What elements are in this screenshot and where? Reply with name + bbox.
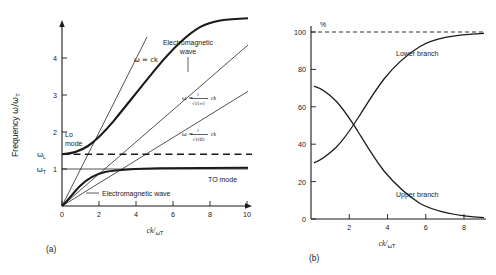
panel-a: Frequency ω/ωT 1 2 3 4 ωL [0, 0, 256, 275]
svg-text:√ε(0): √ε(0) [193, 137, 205, 142]
panel-b-xtick-8: 8 [462, 223, 466, 232]
panel-a-xtick-0: 0 [60, 210, 64, 219]
panel-a-ytick-1: 1 [53, 165, 57, 174]
panel-a-upper-branch-curve [62, 18, 248, 154]
panel-a-formula-eps-inf: ω = 1 √ε(∞) ck [182, 92, 216, 106]
panel-a-ytick-4: 4 [53, 54, 57, 63]
panel-b-y-ticks: 0 20 40 60 80 100 [294, 28, 316, 224]
panel-a-formula-eps-zero: ω = 1 √ε(0) ck [182, 128, 216, 142]
panel-a-omega-L-label: ωL [37, 150, 46, 160]
svg-text:Frequency ω/ωT: Frequency ω/ωT [10, 93, 21, 157]
svg-text:1: 1 [197, 128, 199, 133]
panel-a-x-axis-arrow [245, 203, 252, 208]
panel-b-label: (b) [309, 253, 319, 263]
panel-a-em-wave-bottom-label: Electromagnetic wave [102, 190, 171, 198]
svg-text:√ε(∞): √ε(∞) [192, 101, 205, 106]
panel-a-xtick-8: 8 [208, 210, 212, 219]
panel-b-upper-branch-label: Upper branch [396, 191, 439, 199]
panel-a-y-axis-arrow [59, 20, 64, 27]
panel-b-ytick-40: 40 [298, 140, 306, 149]
panel-a-ytick-3: 3 [53, 91, 57, 100]
panel-a-omega-T-label: ωT [37, 165, 47, 175]
panel-a-lo-mode-label-2: mode [65, 140, 83, 147]
panel-b-x-ticks: 2 4 6 8 [347, 214, 466, 232]
panel-a-lo-mode-label-1: Lo [65, 131, 73, 138]
svg-text:1: 1 [197, 92, 199, 97]
panel-b-ytick-80: 80 [298, 65, 306, 74]
panel-a-y-ticks: 1 2 3 4 [53, 54, 67, 174]
panel-a-eps-zero-line [62, 91, 248, 206]
panel-a-xtick-4: 4 [134, 210, 138, 219]
polariton-figure: Frequency ω/ωT 1 2 3 4 ωL [0, 0, 496, 275]
panel-b-xtick-2: 2 [347, 223, 351, 232]
panel-b-ytick-100: 100 [294, 28, 306, 37]
panel-a-to-mode-label: TO mode [208, 176, 237, 183]
panel-a-em-wave-top-label2: wave [179, 48, 196, 55]
panel-b: 0 20 40 60 80 100 % 2 4 6 8 [256, 0, 496, 275]
panel-b-lower-branch-label: Lower branch [396, 50, 439, 57]
svg-text:ck: ck [211, 95, 216, 101]
panel-a-em-wave-top-label: Electromagnetic [163, 39, 214, 47]
panel-a-ytick-2: 2 [53, 128, 57, 137]
panel-b-ytick-60: 60 [298, 103, 306, 112]
panel-a-label: (a) [46, 244, 56, 254]
panel-a-light-line-label: ω = ck [134, 56, 159, 64]
panel-b-percent-label: % [320, 21, 326, 28]
panel-a-x-axis-label: ck/ωT [147, 226, 164, 236]
panel-a-x-ticks: 0 2 4 6 8 10 [60, 201, 251, 219]
panel-a-xtick-6: 6 [171, 210, 175, 219]
panel-a-xtick-2: 2 [97, 210, 101, 219]
panel-b-xtick-6: 6 [424, 223, 428, 232]
panel-a-lower-branch-curve [62, 168, 248, 206]
panel-b-x-axis-label: ck/ωT [379, 239, 396, 249]
svg-text:ck: ck [211, 131, 216, 137]
panel-a-y-axis-label: Frequency ω/ωT [10, 93, 21, 157]
panel-b-ytick-20: 20 [298, 178, 306, 187]
panel-b-xtick-4: 4 [386, 223, 390, 232]
panel-b-ytick-0: 0 [302, 215, 306, 224]
panel-a-xtick-10: 10 [243, 210, 251, 219]
